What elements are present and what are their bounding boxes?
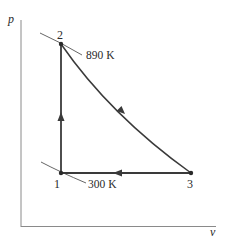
- x-axis-label: v: [210, 225, 216, 239]
- state-label-3: 3: [187, 177, 193, 191]
- state-point-3: [189, 171, 193, 175]
- arrow-down-right-icon: [117, 106, 126, 114]
- state-label-1: 1: [54, 177, 60, 191]
- state-label-2: 2: [57, 28, 63, 42]
- y-axis-label: p: [7, 12, 14, 26]
- state-point-1: [59, 171, 63, 175]
- temperature-label-890k: 890 K: [86, 49, 115, 61]
- arrow-left-icon: [113, 170, 122, 177]
- pv-diagram: p v 2 1 3 890 K 300 K: [0, 0, 232, 242]
- temperature-label-300k: 300 K: [88, 178, 117, 190]
- process-2-3-curve: [61, 44, 191, 173]
- arrow-up-icon: [58, 112, 65, 121]
- state-point-2: [59, 42, 63, 46]
